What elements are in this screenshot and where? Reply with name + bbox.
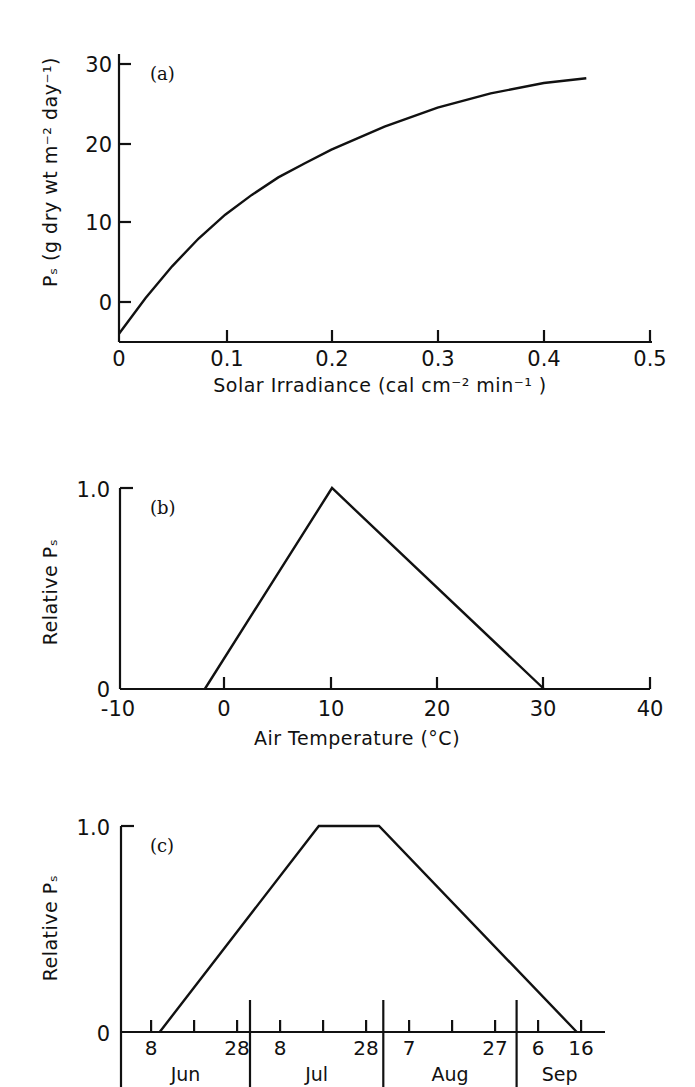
x-tick-label: 20 — [424, 697, 451, 721]
x-tick-label: 8 — [274, 1036, 287, 1060]
x-tick-labels: -10 0 10 20 30 40 — [101, 697, 664, 721]
x-tick-label: 40 — [637, 697, 664, 721]
x-axis-title: Solar Irradiance (cal cm⁻² min⁻¹ ) — [213, 374, 547, 396]
y-tick-label: 20 — [85, 133, 112, 157]
x-tick-label: 8 — [145, 1036, 158, 1060]
x-tick-label: 28 — [224, 1036, 249, 1060]
month-label: Aug — [431, 1063, 468, 1085]
x-tick-label: 7 — [403, 1036, 416, 1060]
y-tick-label: 0 — [99, 291, 112, 315]
figure: 30 20 10 0 0 0.1 0.2 0.3 0.4 0.5 Solar I… — [0, 0, 695, 1087]
x-tick-labels: 0 0.1 0.2 0.3 0.4 0.5 — [112, 347, 666, 371]
x-tick-label: 0.3 — [421, 347, 454, 371]
y-axis — [119, 54, 131, 342]
y-tick-label: 0 — [97, 1022, 110, 1046]
y-tick-labels: 1.0 0 — [77, 816, 110, 1046]
month-label: Jun — [170, 1063, 201, 1085]
x-tick-label: 10 — [318, 697, 345, 721]
y-tick-label: 10 — [85, 211, 112, 235]
x-axis-title: Air Temperature (°C) — [254, 727, 460, 749]
y-tick-labels: 1.0 0 — [77, 478, 110, 702]
month-label: Jul — [304, 1063, 328, 1085]
y-axis-title: Relative Pₛ — [39, 539, 61, 646]
panel-label: (b) — [150, 497, 176, 518]
y-axis-title: Pₛ (g dry wt m⁻² day⁻¹) — [39, 57, 61, 287]
y-tick-labels: 30 20 10 0 — [85, 53, 112, 315]
x-tick-label: 0.2 — [315, 347, 348, 371]
x-tick-label: 30 — [530, 697, 557, 721]
x-tick-label: 0.5 — [633, 347, 666, 371]
panel-a: 30 20 10 0 0 0.1 0.2 0.3 0.4 0.5 Solar I… — [39, 53, 667, 396]
panel-label: (c) — [150, 835, 174, 856]
x-tick-label: 0 — [217, 697, 230, 721]
y-tick-label: 30 — [85, 53, 112, 77]
y-axis — [120, 488, 133, 689]
x-tick-label: 6 — [532, 1036, 545, 1060]
month-label: Sep — [542, 1063, 578, 1085]
x-tick-labels: 828828727616 — [145, 1036, 594, 1060]
x-tick-label: 0.4 — [527, 347, 560, 371]
y-tick-label: 1.0 — [77, 478, 110, 502]
x-tick-label: 16 — [568, 1036, 593, 1060]
y-axis-title: Relative Pₛ — [39, 875, 61, 982]
x-tick-label: 0 — [112, 347, 125, 371]
panel-b: 1.0 0 -10 0 10 20 30 40 Air Temperature … — [39, 478, 663, 749]
x-tick-label: 0.1 — [210, 347, 243, 371]
x-tick-label: 28 — [353, 1036, 378, 1060]
panel-label: (a) — [150, 63, 175, 84]
y-tick-label: 1.0 — [77, 816, 110, 840]
x-axis — [120, 677, 650, 689]
y-axis — [121, 826, 134, 1087]
x-axis — [119, 330, 652, 342]
data-line — [119, 78, 586, 333]
data-line — [160, 826, 577, 1032]
x-tick-label: -10 — [101, 697, 135, 721]
x-tick-label: 27 — [482, 1036, 507, 1060]
panel-c: 1.0 0 828828727616 JunJulAugSep Relative… — [39, 816, 605, 1087]
data-line — [205, 488, 544, 689]
